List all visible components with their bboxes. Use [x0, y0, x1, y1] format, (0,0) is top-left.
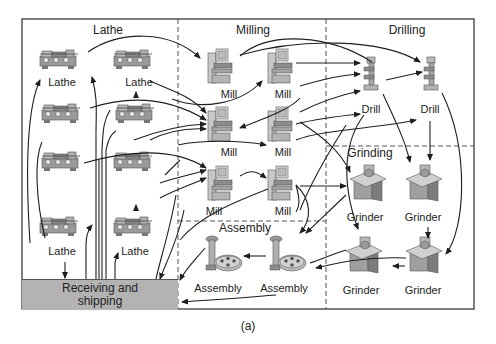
- machine-label-grinder: Grinder: [347, 211, 384, 223]
- mill-icon: [208, 166, 232, 200]
- department-label-milling: Milling: [236, 24, 270, 37]
- machine-label-drill: Drill: [421, 103, 440, 115]
- lathe-icon: [40, 50, 78, 69]
- machine-label-grinder: Grinder: [405, 211, 442, 223]
- drill-icon: [424, 57, 438, 90]
- machine-label-mill: Mill: [275, 146, 292, 158]
- assembly-station-icon: [270, 236, 306, 271]
- lathe-icon: [42, 104, 80, 123]
- grinder-icon: [406, 237, 442, 273]
- machine-label-mill: Mill: [275, 88, 292, 100]
- grinder-icon: [350, 165, 386, 201]
- mill-icon: [208, 107, 232, 141]
- mill-icon: [208, 49, 232, 83]
- lathe-icon: [40, 217, 78, 236]
- machine-label-lathe: Lathe: [48, 245, 76, 257]
- department-label-drilling: Drilling: [389, 24, 426, 37]
- plant-frame: [22, 19, 474, 309]
- mill-icon: [268, 166, 292, 200]
- grinder-icon: [406, 165, 442, 201]
- grinder-icon: [346, 237, 382, 273]
- machine-label-assembly: Assembly: [194, 282, 242, 294]
- lathe-icon: [114, 217, 152, 236]
- machine-label-mill: Mill: [221, 146, 238, 158]
- lathe-icon: [116, 104, 154, 123]
- machine-label-lathe: Lathe: [125, 76, 153, 88]
- department-label-lathe: Lathe: [93, 24, 123, 37]
- machine-label-lathe: Lathe: [48, 76, 76, 88]
- machine-label-lathe: Lathe: [121, 245, 149, 257]
- machine-label-grinder: Grinder: [405, 284, 442, 296]
- machine-label-mill: Mill: [206, 205, 223, 217]
- machine-label-mill: Mill: [275, 205, 292, 217]
- machine-label-drill: Drill: [362, 103, 381, 115]
- lathe-icon: [42, 152, 80, 171]
- flow-arrows: [28, 36, 462, 302]
- machine-label-mill: Mill: [221, 88, 238, 100]
- lathe-icon: [114, 50, 152, 69]
- receiving-label-line2: shipping: [78, 295, 123, 308]
- receiving-shipping-area: Receiving and shipping: [22, 279, 178, 310]
- department-label-grinding: Grinding: [347, 147, 392, 160]
- machine-label-grinder: Grinder: [343, 284, 380, 296]
- machine-label-assembly: Assembly: [260, 282, 308, 294]
- assembly-station-icon: [206, 236, 242, 271]
- mill-icon: [268, 49, 292, 83]
- figure-caption: (a): [241, 319, 256, 333]
- department-label-assembly: Assembly: [219, 222, 271, 235]
